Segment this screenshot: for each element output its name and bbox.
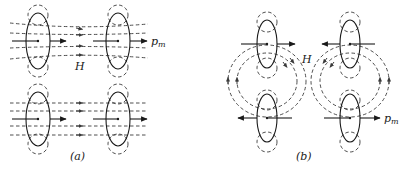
field-label: H <box>301 53 312 66</box>
panel-caption: (a) <box>70 150 85 163</box>
magnetic-loops-figure: pm H (a) <box>0 0 403 169</box>
closed-field-lines-left <box>228 45 306 117</box>
current-loop <box>93 84 147 154</box>
field-label: H <box>74 60 85 73</box>
current-loop <box>12 5 66 77</box>
panel-b: H pm (b) <box>228 12 399 163</box>
current-loop <box>93 5 147 77</box>
current-loop <box>238 90 292 152</box>
moment-label: pm <box>151 35 166 49</box>
current-loop <box>12 84 66 154</box>
closed-field-lines-right <box>311 45 389 117</box>
current-loop <box>324 90 380 152</box>
moment-label: pm <box>384 112 399 126</box>
current-loop <box>241 12 295 78</box>
panel-a: pm H (a) <box>10 5 166 163</box>
panel-caption: (b) <box>296 150 312 163</box>
